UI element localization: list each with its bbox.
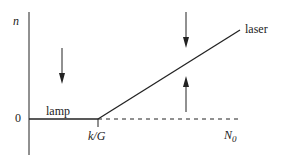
diagram-canvas [0, 0, 281, 166]
down-arrow-right-icon [183, 12, 189, 48]
x-axis-end-label: N0 [224, 128, 237, 144]
lamp-label: lamp [46, 104, 70, 119]
laser-line [98, 30, 240, 119]
zero-label: 0 [15, 111, 21, 126]
x-axis-end-main: N [224, 128, 232, 142]
threshold-label: k/G [88, 129, 105, 144]
down-arrow-left-icon [59, 48, 65, 84]
up-arrow-right-icon [183, 76, 189, 112]
x-axis-end-subscript: 0 [232, 134, 237, 144]
laser-label: laser [245, 22, 268, 37]
y-axis-label: n [13, 14, 19, 29]
